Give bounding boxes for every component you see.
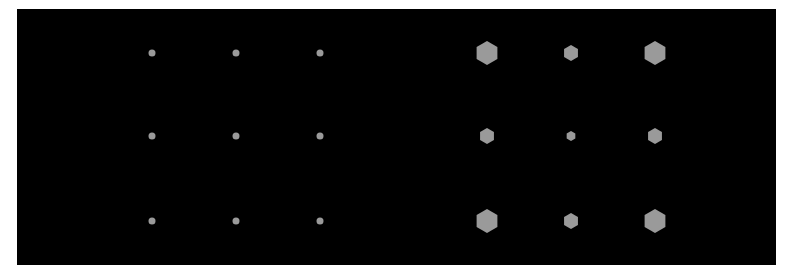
hexagon-icon [477, 209, 498, 233]
dot-icon [233, 218, 240, 225]
hexagon-icon [645, 41, 666, 65]
hexagon-icon [477, 41, 498, 65]
dot-icon [233, 133, 240, 140]
dot-icon [149, 133, 156, 140]
hexagon-icon [648, 128, 662, 144]
hexagon-icon [567, 131, 576, 141]
dot-icon [317, 133, 324, 140]
hexagon-icon [564, 213, 578, 229]
hexagon-icon [645, 209, 666, 233]
dot-icon [233, 50, 240, 57]
dot-icon [317, 50, 324, 57]
hexagon-icon [480, 128, 494, 144]
shape-canvas [0, 0, 795, 270]
dot-icon [149, 50, 156, 57]
dot-icon [317, 218, 324, 225]
hexagon-icon [564, 45, 578, 61]
dot-icon [149, 218, 156, 225]
